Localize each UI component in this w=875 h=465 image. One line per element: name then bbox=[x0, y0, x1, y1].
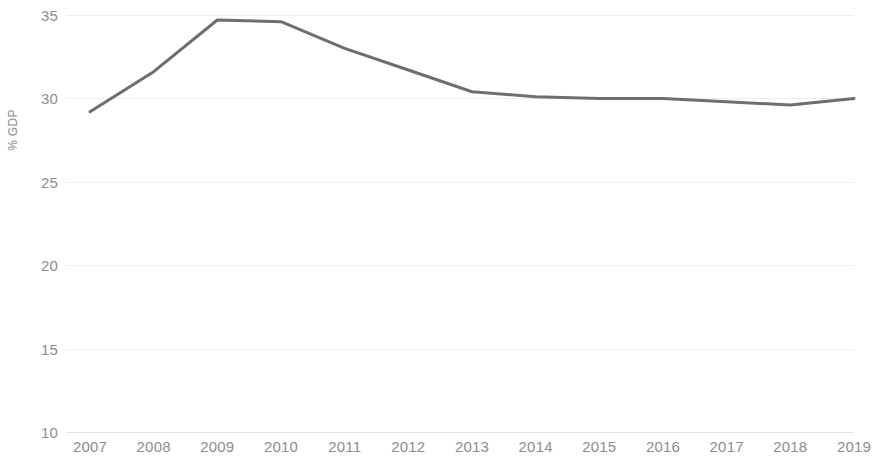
series-line-gdp bbox=[66, 15, 854, 432]
x-tick-label-2009: 2009 bbox=[182, 438, 252, 455]
series-polyline bbox=[90, 20, 854, 112]
x-axis-tick-labels: 2007200820092010201120122013201420152016… bbox=[0, 438, 854, 465]
y-tick-label-35: 35 bbox=[20, 7, 58, 24]
y-tick-label-30: 30 bbox=[20, 90, 58, 107]
x-tick-label-2019: 2019 bbox=[819, 438, 875, 455]
y-axis-title-text: % GDP bbox=[6, 109, 20, 151]
x-tick-label-2016: 2016 bbox=[628, 438, 698, 455]
x-tick-label-2015: 2015 bbox=[564, 438, 634, 455]
x-tick-label-2014: 2014 bbox=[501, 438, 571, 455]
x-tick-label-2007: 2007 bbox=[55, 438, 125, 455]
y-tick-label-25: 25 bbox=[20, 173, 58, 190]
x-tick-label-2010: 2010 bbox=[246, 438, 316, 455]
gridline-10 bbox=[66, 432, 854, 433]
y-tick-label-10: 10 bbox=[20, 424, 58, 441]
x-tick-label-2012: 2012 bbox=[373, 438, 443, 455]
x-tick-label-2017: 2017 bbox=[692, 438, 762, 455]
y-axis-title: % GDP bbox=[0, 0, 26, 465]
y-tick-label-15: 15 bbox=[20, 340, 58, 357]
x-tick-label-2013: 2013 bbox=[437, 438, 507, 455]
x-tick-label-2018: 2018 bbox=[755, 438, 825, 455]
x-tick-label-2008: 2008 bbox=[119, 438, 189, 455]
plot-area bbox=[66, 15, 854, 432]
y-tick-label-20: 20 bbox=[20, 257, 58, 274]
x-tick-label-2011: 2011 bbox=[310, 438, 380, 455]
